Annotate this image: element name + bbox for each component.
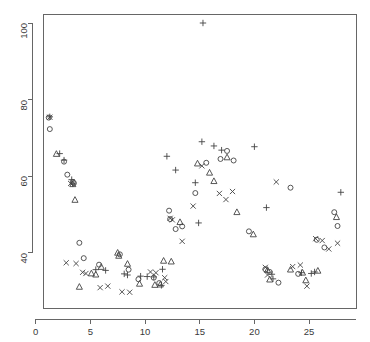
y-tick-label: 40 bbox=[19, 253, 29, 264]
y-tick-label: 80 bbox=[19, 100, 29, 111]
plot-frame bbox=[44, 14, 357, 308]
y-tick-label: 60 bbox=[19, 176, 29, 187]
x-tick-label: 15 bbox=[194, 327, 205, 337]
x-tick-label: 20 bbox=[249, 327, 260, 337]
scatter-plot-figure: 0510152025406080100 bbox=[0, 0, 370, 342]
axes-frame bbox=[33, 14, 357, 319]
x-tick-label: 10 bbox=[140, 327, 151, 337]
x-tick-label: 0 bbox=[33, 327, 38, 337]
x-tick-label: 5 bbox=[88, 327, 93, 337]
plot-canvas bbox=[0, 0, 370, 342]
x-tick-label: 25 bbox=[304, 327, 315, 337]
y-tick-label: 100 bbox=[19, 23, 29, 39]
